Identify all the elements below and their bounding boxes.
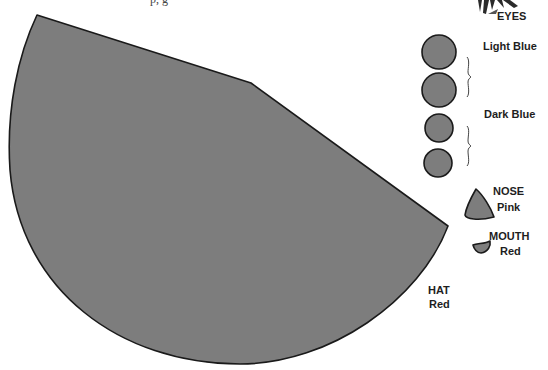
brace-dark-blue-icon xyxy=(467,126,471,166)
eyes-dark-blue-label: Dark Blue xyxy=(484,109,535,120)
eyes-light-blue-label: Light Blue xyxy=(483,41,537,52)
nose-color-label: Pink xyxy=(497,202,520,213)
hat-color-label: Red xyxy=(429,299,450,310)
hat-title: HAT xyxy=(428,285,450,296)
shapes-canvas xyxy=(0,0,548,370)
nose-title: NOSE xyxy=(493,186,524,197)
eye-light-blue-1 xyxy=(422,35,456,69)
eye-dark-blue-1 xyxy=(425,114,453,142)
eye-dark-blue-2 xyxy=(424,149,452,177)
eye-light-blue-2 xyxy=(422,73,456,107)
hat-shape xyxy=(9,15,448,364)
mouth-color-label: Red xyxy=(500,246,521,257)
eyes-title: EYES xyxy=(497,11,526,22)
mouth-title: MOUTH xyxy=(489,231,529,242)
nose-shape xyxy=(465,189,494,219)
brace-light-blue-icon xyxy=(467,57,471,97)
mouth-shape xyxy=(473,241,490,253)
cutout-template-sheet: p, g EYES Light Blue Dark Blue NOSE Pink xyxy=(0,0,548,370)
